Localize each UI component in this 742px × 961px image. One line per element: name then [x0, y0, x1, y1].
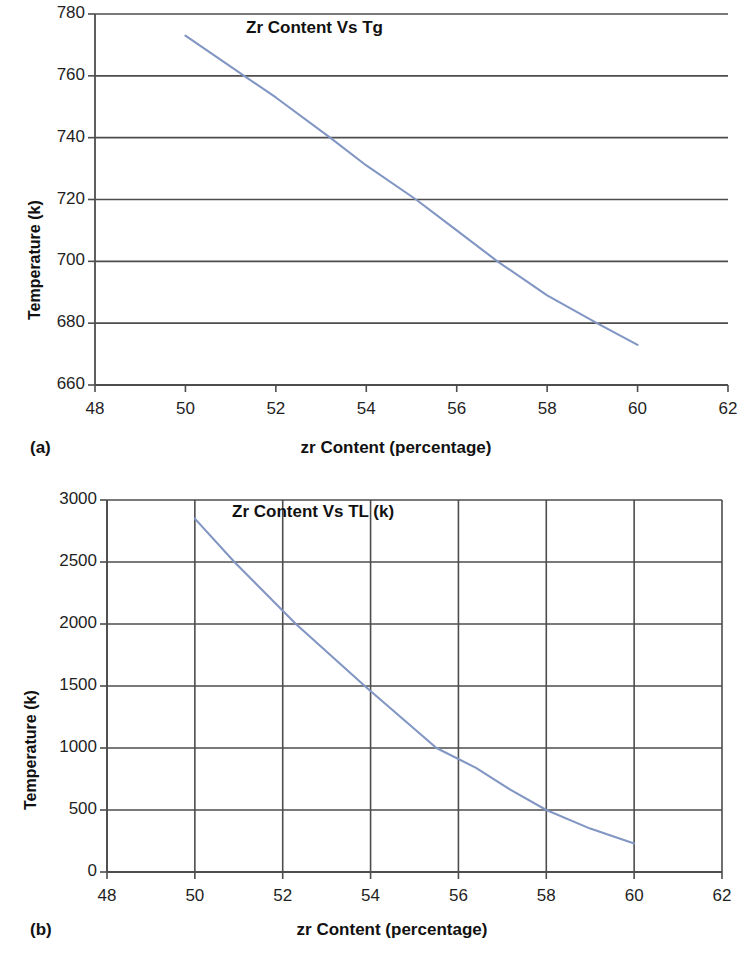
y-tick-label: 720	[23, 189, 85, 209]
y-tick-label: 740	[23, 127, 85, 147]
chart-b-plot-region: 0500100015002000250030004850525456586062	[0, 480, 732, 920]
x-tick-label: 54	[341, 399, 391, 419]
y-tick-label: 1500	[35, 675, 97, 695]
chart-a-svg	[0, 0, 732, 425]
chart-panel-a: Temperature (k) Zr Content Vs Tg 6606807…	[0, 0, 732, 480]
y-tick-label: 680	[23, 312, 85, 332]
chart-b-caption-row: (b) zr Content (percentage)	[0, 920, 732, 960]
x-tick-label: 48	[70, 399, 120, 419]
y-tick-label: 2000	[35, 613, 97, 633]
y-tick-label: 500	[35, 799, 97, 819]
chart-a-x-axis-title: zr Content (percentage)	[0, 438, 742, 458]
x-tick-label: 62	[697, 886, 742, 906]
chart-b-svg	[0, 480, 732, 920]
chart-b-y-axis-title: Temperature (k)	[22, 690, 40, 810]
x-tick-label: 58	[522, 399, 572, 419]
x-tick-label: 60	[613, 399, 663, 419]
y-tick-label: 2500	[35, 551, 97, 571]
x-tick-label: 54	[346, 886, 396, 906]
x-tick-label: 48	[82, 886, 132, 906]
y-tick-label: 780	[23, 3, 85, 23]
y-tick-label: 700	[23, 250, 85, 270]
y-tick-label: 0	[35, 861, 97, 881]
x-tick-label: 60	[609, 886, 659, 906]
x-tick-label: 50	[160, 399, 210, 419]
x-tick-label: 58	[521, 886, 571, 906]
y-tick-label: 1000	[35, 737, 97, 757]
chart-a-title: Zr Content Vs Tg	[246, 18, 383, 38]
x-tick-label: 52	[258, 886, 308, 906]
chart-b-x-axis-title: zr Content (percentage)	[0, 920, 742, 940]
chart-b-title: Zr Content Vs TL (k)	[232, 502, 394, 522]
x-tick-label: 50	[170, 886, 220, 906]
x-tick-label: 56	[432, 399, 482, 419]
y-tick-label: 660	[23, 374, 85, 394]
chart-a-caption-row: (a) zr Content (percentage)	[0, 438, 732, 478]
x-tick-label: 52	[251, 399, 301, 419]
y-tick-label: 3000	[35, 489, 97, 509]
chart-panel-b: 0500100015002000250030004850525456586062	[0, 480, 732, 961]
x-tick-label: 62	[703, 399, 742, 419]
x-tick-label: 56	[433, 886, 483, 906]
chart-a-plot-region: Temperature (k) Zr Content Vs Tg 6606807…	[0, 0, 732, 425]
y-tick-label: 760	[23, 65, 85, 85]
